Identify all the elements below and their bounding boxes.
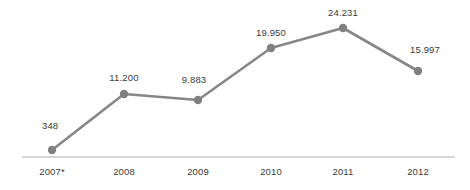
x-tick-label-2009: 2009	[176, 166, 220, 178]
data-label-2008: 11.200	[104, 72, 144, 84]
line-chart: 348 11.200 9.883 19.950 24.231 15.997 20…	[0, 0, 470, 190]
data-label-2012: 15.997	[402, 44, 448, 56]
data-point-marker	[48, 146, 56, 154]
data-label-2011: 24.231	[320, 7, 366, 19]
data-point-marker	[267, 44, 275, 52]
data-label-2010: 19.950	[248, 27, 294, 39]
x-tick-label-2007: 2007*	[28, 166, 76, 178]
chart-plot-area	[0, 0, 470, 190]
data-label-2009: 9.883	[174, 74, 214, 86]
x-tick-label-2010: 2010	[249, 166, 293, 178]
data-point-marker	[414, 67, 422, 75]
series-markers	[48, 24, 422, 154]
data-point-marker	[120, 90, 128, 98]
data-point-marker	[339, 24, 347, 32]
x-tick-label-2011: 2011	[321, 166, 365, 178]
data-point-marker	[194, 96, 202, 104]
data-label-2007: 348	[42, 120, 58, 132]
x-tick-label-2008: 2008	[102, 166, 146, 178]
x-tick-label-2012: 2012	[396, 166, 440, 178]
series-line	[52, 28, 418, 150]
